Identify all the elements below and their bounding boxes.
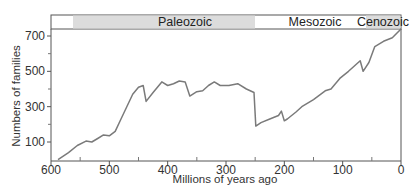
y-axis-title: Numbers of families xyxy=(10,45,22,147)
era-label-cenozoic: Cenozoic xyxy=(357,15,409,29)
y-tick-label: 500 xyxy=(25,64,45,78)
era-label-paleozoic: Paleozoic xyxy=(158,15,212,29)
plot-frame xyxy=(51,29,401,161)
x-axis-title: Millions of years ago xyxy=(173,173,278,185)
x-tick-label: 0 xyxy=(398,163,405,177)
era-label-mesozoic: Mesozoic xyxy=(289,15,342,29)
families-series-line xyxy=(58,29,401,160)
y-axis-ticks: 100300500700 xyxy=(25,29,51,149)
fossil-families-chart: Paleozoic Mesozoic Cenozoic 100300500700… xyxy=(0,0,417,190)
y-tick-label: 100 xyxy=(25,135,45,149)
y-tick-label: 700 xyxy=(25,29,45,43)
x-tick-label: 600 xyxy=(41,163,61,177)
geologic-era-bar: Paleozoic Mesozoic Cenozoic xyxy=(51,15,409,29)
y-tick-label: 300 xyxy=(25,100,45,114)
x-tick-label: 500 xyxy=(99,163,119,177)
x-tick-label: 100 xyxy=(333,163,353,177)
